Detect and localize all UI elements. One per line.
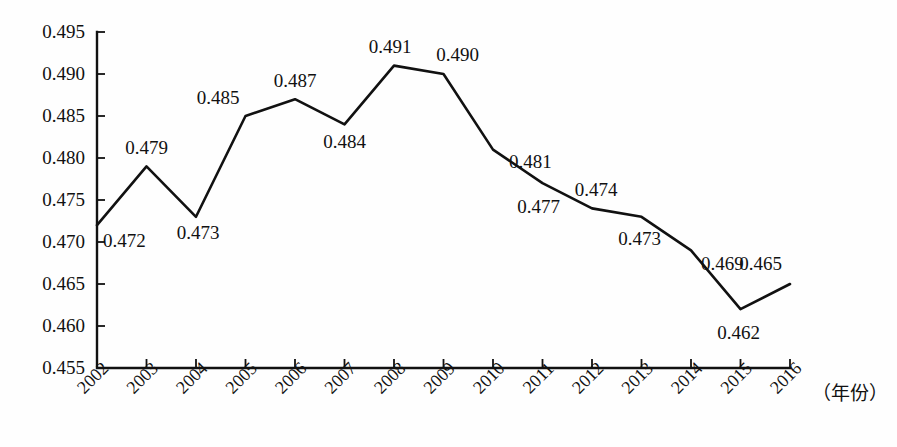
x-tick-label: 2004 — [172, 358, 212, 398]
x-tick-label: 2007 — [320, 358, 360, 398]
chart-axes — [97, 32, 790, 368]
data-point-label: 0.465 — [739, 253, 782, 274]
x-tick-label: 2015 — [716, 358, 756, 398]
x-tick-label: 2016 — [766, 358, 806, 398]
x-axis-tick-labels: 2002200320042005200620072008200920102011… — [73, 358, 806, 398]
y-tick-label: 0.480 — [42, 147, 85, 168]
y-tick-label: 0.470 — [42, 231, 85, 252]
data-point-label: 0.484 — [323, 131, 366, 152]
x-tick-label: 2014 — [667, 358, 707, 398]
data-point-label: 0.487 — [274, 70, 317, 91]
data-point-labels: 0.4720.4790.4730.4850.4870.4840.4910.490… — [103, 36, 782, 344]
x-tick-label: 2012 — [568, 358, 608, 398]
line-chart: 0.4550.4600.4650.4700.4750.4800.4850.490… — [0, 0, 897, 447]
x-tick-label: 2013 — [617, 358, 657, 398]
x-tick-label: 2008 — [370, 358, 410, 398]
y-tick-label: 0.485 — [42, 105, 85, 126]
x-tick-label: 2006 — [271, 358, 311, 398]
chart-page: 0.4550.4600.4650.4700.4750.4800.4850.490… — [0, 0, 897, 447]
y-axis-tick-labels: 0.4550.4600.4650.4700.4750.4800.4850.490… — [42, 21, 85, 378]
y-tick-label: 0.460 — [42, 315, 85, 336]
x-tick-label: 2010 — [469, 358, 509, 398]
data-point-label: 0.472 — [103, 230, 146, 251]
data-point-label: 0.477 — [517, 196, 560, 217]
x-tick-label: 2011 — [519, 358, 558, 397]
y-tick-label: 0.495 — [42, 21, 85, 42]
data-point-label: 0.462 — [717, 322, 760, 343]
data-point-label: 0.469 — [701, 253, 744, 274]
data-point-label: 0.490 — [436, 44, 479, 65]
y-tick-label: 0.455 — [42, 357, 85, 378]
data-point-label: 0.479 — [125, 137, 168, 158]
x-tick-label: 2005 — [221, 358, 261, 398]
data-point-label: 0.481 — [509, 151, 552, 172]
data-point-label: 0.491 — [369, 36, 412, 57]
y-tick-label: 0.490 — [42, 63, 85, 84]
x-tick-label: 2003 — [122, 358, 162, 398]
x-tick-label: 2009 — [419, 358, 459, 398]
data-point-label: 0.474 — [575, 179, 618, 200]
y-tick-label: 0.475 — [42, 189, 85, 210]
data-point-label: 0.473 — [618, 228, 661, 249]
data-point-label: 0.485 — [197, 87, 240, 108]
x-axis-caption: （年份） — [812, 383, 888, 404]
data-point-label: 0.473 — [177, 222, 220, 243]
y-tick-label: 0.465 — [42, 273, 85, 294]
